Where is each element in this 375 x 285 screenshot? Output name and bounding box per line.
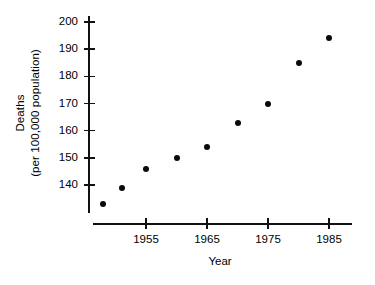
data-point — [174, 155, 180, 161]
data-point — [204, 144, 210, 150]
data-point — [119, 185, 125, 191]
y-tick-mark — [84, 48, 95, 50]
y-tick-label: 180 — [44, 70, 78, 82]
x-axis-title: Year — [160, 255, 280, 267]
data-point — [326, 35, 332, 41]
y-tick-mark — [84, 76, 95, 78]
y-axis-title-line-2: (per 100,000 population) — [28, 49, 43, 177]
x-tick-label: 1985 — [306, 234, 352, 246]
y-axis-title: Deaths (per 100,000 population) — [0, 0, 56, 225]
y-tick-label: 140 — [44, 179, 78, 191]
y-tick-label: 170 — [44, 98, 78, 110]
y-tick-mark — [84, 184, 95, 186]
data-point — [100, 201, 106, 207]
x-tick-mark — [145, 218, 147, 229]
y-tick-label: 160 — [44, 125, 78, 137]
x-tick-mark — [206, 218, 208, 229]
data-point — [235, 120, 241, 126]
data-point — [265, 101, 271, 107]
y-axis-title-line-1: Deaths — [13, 49, 28, 177]
y-tick-mark — [84, 130, 95, 132]
x-axis-line — [93, 223, 352, 225]
x-tick-mark — [328, 218, 330, 229]
y-tick-label: 190 — [44, 43, 78, 55]
x-tick-mark — [267, 218, 269, 229]
x-tick-label: 1975 — [245, 234, 291, 246]
y-tick-label: 200 — [44, 16, 78, 28]
data-point — [296, 60, 302, 66]
data-point — [143, 166, 149, 172]
y-tick-mark — [84, 103, 95, 105]
y-tick-label: 150 — [44, 152, 78, 164]
y-tick-mark — [84, 157, 95, 159]
y-tick-mark — [84, 21, 95, 23]
x-tick-label: 1955 — [123, 234, 169, 246]
scatter-chart: Deaths (per 100,000 population) 14015016… — [0, 0, 375, 285]
x-tick-label: 1965 — [184, 234, 230, 246]
